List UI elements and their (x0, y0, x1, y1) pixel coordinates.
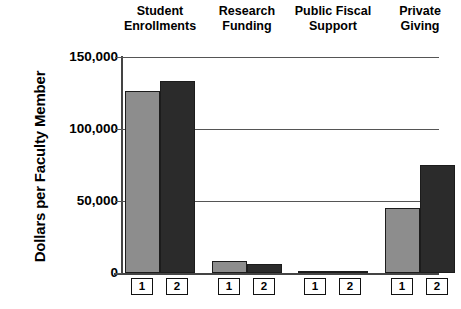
category-label-line: Giving (365, 19, 461, 34)
category-label-line: Private (365, 4, 461, 19)
y-axis-line (121, 56, 123, 273)
series-box-2-1: 1 (218, 278, 240, 295)
y-tick-0 (115, 273, 122, 274)
bar-1-series2 (160, 81, 195, 273)
y-tick-label-150000: 150,000 (44, 50, 118, 64)
y-tick-150000 (115, 57, 122, 58)
bar-3-series2 (333, 271, 368, 273)
x-axis-baseline (114, 273, 439, 275)
series-box-4-2: 2 (426, 278, 448, 295)
bar-3-series1 (298, 271, 333, 273)
bar-chart: Dollars per Faculty Member 050,000100,00… (0, 0, 461, 309)
series-box-3-1: 1 (304, 278, 326, 295)
series-box-1-1: 1 (131, 278, 153, 295)
plot-area (122, 57, 439, 273)
bar-4-series2 (420, 165, 455, 273)
bar-2-series2 (247, 264, 282, 273)
y-tick-label-50000: 50,000 (44, 194, 118, 208)
category-label-4: PrivateGiving (365, 4, 461, 34)
series-legend-boxes: 11112222 (0, 278, 461, 302)
bar-2-series1 (212, 261, 247, 273)
series-box-4-1: 1 (391, 278, 413, 295)
y-tick-label-100000: 100,000 (44, 122, 118, 136)
bar-4-series1 (385, 208, 420, 273)
category-labels: StudentEnrollmentsResearchFundingPublic … (0, 4, 461, 50)
y-tick-100000 (115, 129, 122, 130)
series-box-3-2: 2 (339, 278, 361, 295)
series-box-2-2: 2 (253, 278, 275, 295)
bar-1-series1 (125, 91, 160, 273)
y-tick-50000 (115, 201, 122, 202)
gridline-150000 (122, 57, 439, 58)
series-box-1-2: 2 (166, 278, 188, 295)
